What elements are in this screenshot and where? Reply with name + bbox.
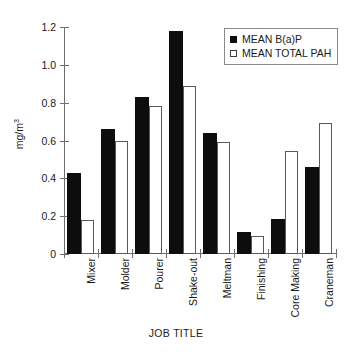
x-axis-tick-mark xyxy=(336,249,337,258)
legend-label-mean-total-pah: MEAN TOTAL PAH xyxy=(242,47,331,59)
x-axis-tick-label: Craneman xyxy=(323,258,335,307)
x-axis-tick-mark xyxy=(234,249,235,258)
y-axis-title-exponent: 3 xyxy=(13,119,20,123)
x-axis-tick-label: Molder xyxy=(119,258,131,290)
x-axis-tick-mark xyxy=(200,249,201,258)
bar-group xyxy=(101,27,128,254)
bar xyxy=(183,86,197,254)
y-axis-tick-label: 1.0 xyxy=(26,60,56,70)
bar-group xyxy=(169,27,196,254)
y-axis-tick-label: 0.8 xyxy=(26,98,56,108)
legend-item-mean-bap: MEAN B(a)P xyxy=(230,32,331,46)
bar xyxy=(285,151,299,254)
x-axis-tick-mark xyxy=(302,249,303,258)
bar xyxy=(149,106,163,254)
bar xyxy=(203,133,217,254)
bar xyxy=(67,173,81,254)
legend-label-mean-bap: MEAN B(a)P xyxy=(242,33,302,45)
x-axis-tick-mark xyxy=(64,249,65,258)
bar xyxy=(81,220,95,254)
bar xyxy=(305,167,319,254)
y-axis-tick-label: 1.2 xyxy=(26,22,56,32)
x-axis-tick-mark xyxy=(98,249,99,258)
x-axis-tick-label: Core Making xyxy=(289,258,301,318)
bar xyxy=(169,31,183,254)
x-axis-tick-label: Mixer xyxy=(85,258,97,284)
x-axis-tick-label: Finishing xyxy=(255,258,267,300)
y-axis-tick-label: 0.4 xyxy=(26,173,56,183)
bar xyxy=(251,236,265,254)
bar xyxy=(237,232,251,254)
bar xyxy=(271,219,285,254)
y-axis-tick-label: 0 xyxy=(26,249,56,259)
x-axis-tick-labels: MixerMolderPourerShake-outMeltmanFinishi… xyxy=(64,258,336,320)
x-axis-tick-mark xyxy=(268,249,269,258)
bar-group xyxy=(135,27,162,254)
legend: MEAN B(a)P MEAN TOTAL PAH xyxy=(224,28,338,65)
y-axis-tick-label: 0.6 xyxy=(26,136,56,146)
legend-item-mean-total-pah: MEAN TOTAL PAH xyxy=(230,46,331,60)
x-axis-tick-label: Pourer xyxy=(153,258,165,290)
y-axis-tick-labels: 00.20.40.60.81.01.2 xyxy=(22,0,56,353)
y-axis-tick-label: 0.2 xyxy=(26,211,56,221)
bar-chart: mg/m3 00.20.40.60.81.01.2 MixerMolderPou… xyxy=(0,0,352,353)
legend-swatch-filled-icon xyxy=(230,36,237,43)
x-axis-tick-label: Meltman xyxy=(221,258,233,298)
legend-swatch-open-icon xyxy=(230,50,237,57)
x-axis-tick-mark xyxy=(132,249,133,258)
x-axis-tick-label: Shake-out xyxy=(187,258,199,306)
x-axis-tick-mark xyxy=(166,249,167,258)
bar xyxy=(101,129,115,254)
bar xyxy=(115,141,129,255)
x-axis-title: JOB TITLE xyxy=(0,327,352,339)
bar xyxy=(135,97,149,254)
bar xyxy=(217,142,231,254)
bar-group xyxy=(67,27,94,254)
bar xyxy=(319,123,333,254)
